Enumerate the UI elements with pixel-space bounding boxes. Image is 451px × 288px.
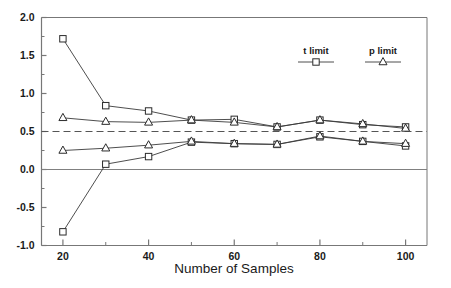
x-tick-label: 40 bbox=[143, 250, 155, 262]
data-point bbox=[145, 108, 151, 114]
chart-svg: 2.01.51.00.50.0-0.5-1.0 20406080100 t li… bbox=[0, 0, 451, 288]
legend-item-t-limit[interactable]: t limit bbox=[298, 45, 334, 65]
legend-item-p-limit[interactable]: p limit bbox=[365, 45, 401, 65]
x-axis-title: Number of Samples bbox=[174, 261, 294, 276]
y-tick-label: 0.5 bbox=[20, 125, 35, 137]
x-tick-label: 20 bbox=[57, 250, 69, 262]
x-tick-label: 60 bbox=[228, 250, 240, 262]
data-point bbox=[60, 229, 66, 235]
y-tick-label: -0.5 bbox=[16, 201, 34, 213]
legend-marker bbox=[313, 59, 319, 65]
y-tick-label: 1.5 bbox=[20, 49, 35, 61]
y-tick-label: 0.0 bbox=[20, 163, 35, 175]
x-tick-label: 100 bbox=[397, 250, 415, 262]
y-tick-label: -1.0 bbox=[16, 239, 34, 251]
data-point bbox=[103, 102, 109, 108]
data-point bbox=[60, 36, 66, 42]
x-tick-label: 80 bbox=[314, 250, 326, 262]
data-point bbox=[145, 153, 151, 159]
legend-label: t limit bbox=[303, 45, 329, 56]
legend-label: p limit bbox=[369, 45, 398, 56]
y-tick-label: 2.0 bbox=[20, 11, 35, 23]
data-point bbox=[103, 161, 109, 167]
y-tick-label: 1.0 bbox=[20, 87, 35, 99]
chart-figure: 2.01.51.00.50.0-0.5-1.0 20406080100 t li… bbox=[0, 0, 451, 288]
